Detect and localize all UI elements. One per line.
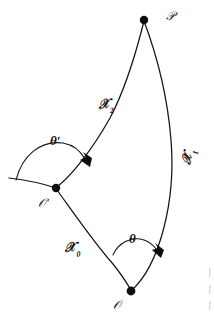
angle-label-theta: θ	[129, 232, 136, 245]
angle-label-theta-prime: θ′	[50, 134, 60, 147]
angle-arc-theta-prime	[16, 143, 85, 180]
curve-label-x2-base: 𝒳	[97, 95, 110, 111]
geodesic-triangle-figure: 𝒫 𝒪′ 𝒪 𝒳2 𝒳1 𝒳0 θ′ θ	[0, 0, 214, 315]
curve-label-x0-subscript: 0	[76, 249, 81, 258]
edge-fragment-mark-3	[209, 301, 210, 310]
point-label-o: 𝒪	[113, 299, 121, 311]
curve-label-x0-base: 𝒳	[64, 239, 77, 255]
edge-fragment-mark-2	[209, 285, 210, 294]
point-label-p: 𝒫	[166, 10, 175, 22]
curve-label-x1: 𝒳1	[179, 148, 198, 166]
curve-label-x0: 𝒳0	[64, 239, 81, 257]
point-label-o-prime: 𝒪′	[38, 197, 49, 209]
edge-fragment-mark-1	[209, 268, 210, 277]
curve-x1-path	[131, 21, 172, 291]
vertex-dot-p	[140, 16, 148, 24]
vertex-dot-o	[127, 287, 136, 296]
vertex-dot-o-prime	[52, 184, 60, 192]
curve-label-x2: 𝒳2	[97, 96, 114, 115]
